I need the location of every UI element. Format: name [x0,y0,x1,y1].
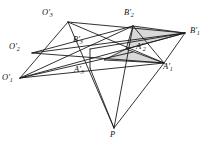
edge-P-A1 [114,63,164,128]
vertex-label-A1: A′1 [163,63,173,71]
vertex-sub-A2: 2 [143,46,146,52]
vertex-label-A2: A′2 [136,43,146,51]
vertex-base-P: P [110,130,115,139]
vertex-sub-B2: 2 [131,12,134,18]
vertex-label-O1: O′1 [2,74,13,82]
edge-P-A3 [90,68,114,128]
vertex-sub-B1: 1 [197,30,200,36]
geometry-figure: O′3 B′2 B′1 B′3 A′2 O′2 A′1 A′3 O′1 P [0,0,213,149]
vertex-sub-A1: 1 [170,66,173,72]
vertex-sub-O3: 3 [50,12,53,18]
vertex-sub-O2: 2 [17,46,20,52]
edge-O1-A1 [20,63,164,78]
vertex-label-B1: B′1 [190,27,200,35]
vertex-sub-O1: 1 [10,77,13,83]
vertex-label-O3: O′3 [42,9,53,17]
vertex-label-P: P [110,131,115,139]
edge-O2-B1 [32,33,185,53]
vertex-label-B2: B′2 [124,9,134,17]
vertex-label-O2: O′2 [9,43,20,51]
vertex-sub-B3: 3 [80,39,83,45]
vertex-label-A3: A′3 [74,66,84,74]
geometry-canvas [0,0,213,149]
vertex-label-B3: B′3 [73,36,83,44]
vertex-sub-A3: 3 [81,69,84,75]
